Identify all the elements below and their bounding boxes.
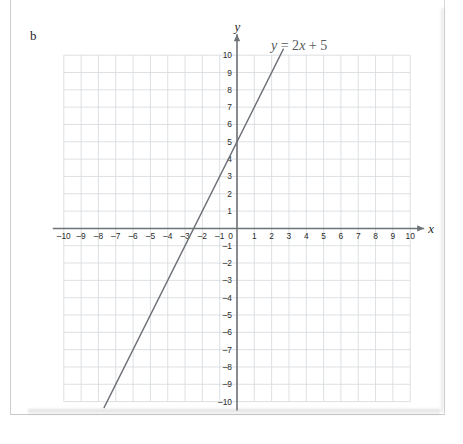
axis-names-group: xy <box>233 19 435 236</box>
axes-group <box>53 34 424 410</box>
y-tick-label: –4 <box>223 293 233 303</box>
y-tick-label: 1 <box>227 206 232 216</box>
y-tick-label: –8 <box>223 362 233 372</box>
x-tick-label: –2 <box>198 231 208 241</box>
x-tick-label: 1 <box>252 231 257 241</box>
y-tick-label: 10 <box>223 50 233 60</box>
y-axis-name: y <box>233 19 241 34</box>
x-tick-label: –10 <box>57 231 71 241</box>
x-tick-label: 3 <box>287 231 292 241</box>
origin-label: 0 <box>228 231 233 241</box>
y-tick-label: –6 <box>223 327 233 337</box>
cartesian-graph: –10–9–8–7–6–5–4–3–2–11234567891010987654… <box>0 0 463 444</box>
x-axis-arrow-icon <box>417 225 424 231</box>
x-tick-label: –7 <box>111 231 121 241</box>
graph-svg: –10–9–8–7–6–5–4–3–2–11234567891010987654… <box>0 0 463 444</box>
x-tick-label: 4 <box>304 231 309 241</box>
x-tick-label: 8 <box>373 231 378 241</box>
y-tick-label: –7 <box>223 345 233 355</box>
x-tick-label: 2 <box>269 231 274 241</box>
x-tick-label: –4 <box>163 231 173 241</box>
y-tick-label: 2 <box>227 189 232 199</box>
y-tick-label: 6 <box>227 119 232 129</box>
x-tick-label: –1 <box>215 231 225 241</box>
x-tick-label: –8 <box>94 231 104 241</box>
x-tick-label: 7 <box>356 231 361 241</box>
x-tick-label: –9 <box>76 231 86 241</box>
equation-label: y = 2x + 5 <box>269 38 327 53</box>
y-tick-label: –5 <box>223 310 233 320</box>
y-axis-arrow-icon <box>234 34 240 41</box>
y-tick-label: –3 <box>223 275 233 285</box>
y-tick-label: –1 <box>223 241 233 251</box>
equation-label-group: y = 2x + 5 <box>269 38 327 53</box>
x-tick-label: –6 <box>128 231 138 241</box>
x-tick-label: 10 <box>406 231 416 241</box>
y-tick-label: –10 <box>218 397 232 407</box>
y-tick-label: 5 <box>227 137 232 147</box>
y-tick-label: –9 <box>223 379 233 389</box>
x-tick-label: 6 <box>339 231 344 241</box>
x-tick-label: –5 <box>146 231 156 241</box>
y-tick-label: 8 <box>227 85 232 95</box>
page-root: b –10–9–8–7–6–5–4–3–2–112345678910109876… <box>0 0 463 444</box>
y-tick-label: 3 <box>227 171 232 181</box>
y-tick-label: 9 <box>227 68 232 78</box>
y-tick-label: 7 <box>227 102 232 112</box>
x-tick-label: 5 <box>321 231 326 241</box>
x-axis-name: x <box>427 221 434 236</box>
x-tick-label: 9 <box>391 231 396 241</box>
y-tick-label: –2 <box>223 258 233 268</box>
